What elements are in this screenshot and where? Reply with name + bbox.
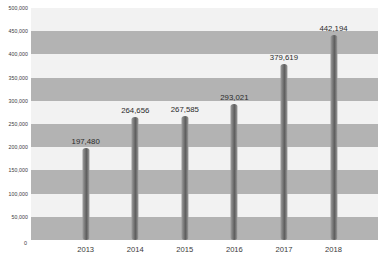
y-axis-tick-label: 350,000 (9, 75, 28, 81)
y-axis-tick-label: 250,000 (9, 121, 28, 127)
grid-band (31, 101, 378, 124)
bar-value-label: 293,021 (220, 93, 248, 102)
bar-value-label: 267,585 (171, 105, 199, 114)
y-axis-tick-label: 500,000 (9, 5, 28, 11)
x-axis-tick-label: 2013 (77, 245, 94, 254)
y-axis-tick-label: 150,000 (9, 167, 28, 173)
bar-value-label: 442,194 (319, 24, 347, 33)
bar (330, 35, 337, 240)
x-axis-tick-label: 2016 (226, 245, 243, 254)
x-axis-tick-label: 2017 (275, 245, 292, 254)
grid-band (31, 78, 378, 101)
y-axis-tick-label: 100,000 (9, 191, 28, 197)
bar-value-label: 379,619 (270, 53, 298, 62)
bar-value-label: 264,656 (121, 106, 149, 115)
y-axis-tick-label: 450,000 (9, 28, 28, 34)
plot-area (31, 8, 378, 240)
x-axis-tick-label: 2015 (176, 245, 193, 254)
grid-band (31, 54, 378, 77)
x-axis-tick-label: 2018 (325, 245, 342, 254)
bar (132, 117, 139, 240)
bar-chart: 500,000450,000400,000350,000300,000250,0… (0, 0, 387, 263)
x-axis-tick-label: 2014 (127, 245, 144, 254)
bar (231, 104, 238, 240)
bar (181, 116, 188, 240)
y-axis-tick-label: 400,000 (9, 51, 28, 57)
y-axis-tick-label: 50,000 (12, 214, 28, 220)
y-axis-tick-label: 300,000 (9, 98, 28, 104)
bar-value-label: 197,480 (72, 137, 100, 146)
bar (82, 148, 89, 240)
y-axis-zero-label: 0 (24, 240, 27, 246)
grid-band (31, 31, 378, 54)
y-axis: 500,000450,000400,000350,000300,000250,0… (0, 0, 31, 248)
y-axis-tick-label: 200,000 (9, 144, 28, 150)
x-axis: 201320142015201620172018 (31, 245, 378, 259)
bar (280, 64, 287, 240)
